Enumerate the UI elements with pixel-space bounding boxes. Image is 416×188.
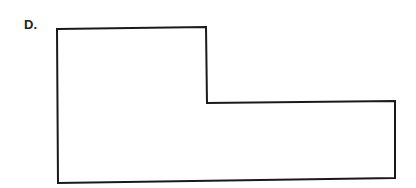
l-shape-diagram xyxy=(0,0,416,188)
l-shape-outline xyxy=(57,27,395,183)
